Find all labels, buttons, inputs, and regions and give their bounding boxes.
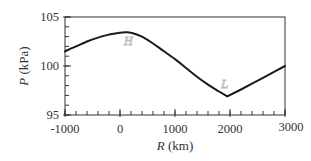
y-tick-label: 105	[40, 10, 59, 24]
x-tick-label: 2000	[218, 122, 243, 136]
y-axis-variable: P	[16, 78, 31, 87]
pressure-chart: H L -10000100020003000 95100105 R (km) P…	[0, 0, 311, 161]
x-tick-label: -1000	[50, 122, 79, 136]
y-axis-unit: (kPa)	[16, 46, 31, 77]
y-tick-labels: 95100105	[40, 10, 59, 122]
y-axis-title: P (kPa)	[16, 46, 31, 86]
x-axis-title: R (km)	[156, 138, 193, 153]
minor-ticks	[65, 17, 285, 115]
x-axis-variable: R	[156, 138, 165, 153]
x-tick-label: 3000	[279, 120, 304, 134]
plot-frame	[65, 17, 285, 115]
x-tick-label: 1000	[163, 122, 188, 136]
low-pressure-label: L	[220, 77, 228, 91]
pressure-curve	[65, 32, 285, 96]
x-tick-labels: -10000100020003000	[50, 120, 303, 136]
y-tick-label: 100	[40, 59, 59, 73]
x-tick-label: 0	[117, 122, 123, 136]
x-axis-unit: (km)	[165, 138, 194, 153]
high-pressure-label: H	[123, 34, 134, 48]
major-ticks	[63, 17, 285, 117]
y-tick-label: 95	[47, 108, 60, 122]
